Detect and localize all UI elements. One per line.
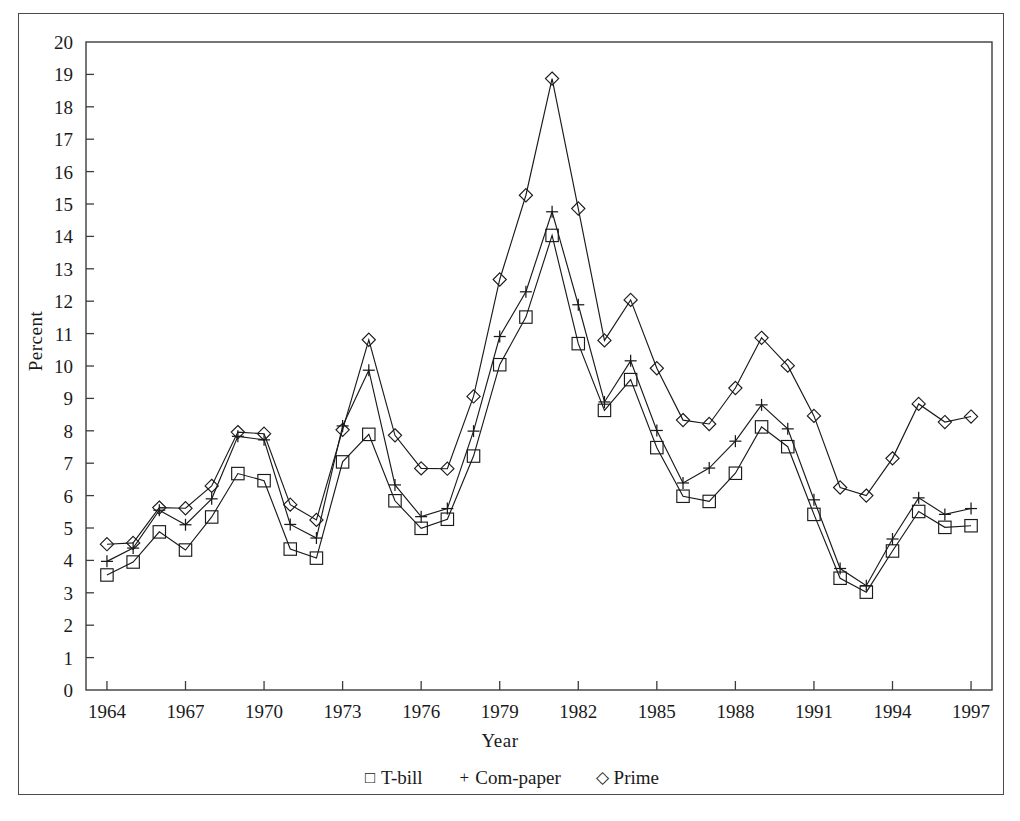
series-t-bill [101,229,978,598]
chart-legend: □T-bill +Com-paper ◇Prime [0,765,1020,789]
y-axis-tick-label: 12 [54,291,73,312]
x-axis-tick-label: 1979 [481,701,519,722]
y-axis-tick-label: 5 [64,518,74,539]
x-axis-tick-label: 1973 [324,701,362,722]
marker-diamond [964,410,977,423]
y-axis-tick-label: 8 [64,421,74,442]
y-axis-tick-label: 3 [64,583,74,604]
marker-square [101,569,113,581]
y-axis-tick-label: 17 [54,129,73,150]
y-axis-tick-label: 11 [55,324,73,345]
series-line [107,212,971,586]
x-axis-tick-label: 1970 [245,701,283,722]
y-axis-tick-label: 1 [64,648,74,669]
x-axis-label: Year [430,730,570,752]
line-chart-plot: 0123456789101112131415161718192019641967… [0,0,1020,821]
y-axis-tick-label: 2 [64,615,74,636]
y-axis-tick-label: 19 [54,64,73,85]
chart-area: 0123456789101112131415161718192019641967… [0,0,1020,821]
y-axis-tick-label: 16 [54,162,73,183]
legend-item-t-bill: □T-bill [361,765,423,789]
x-axis-tick-label: 1994 [873,701,912,722]
legend-item-prime: ◇Prime [594,765,659,789]
y-axis-tick-label: 14 [54,226,74,247]
plus-marker-icon: + [455,768,473,788]
y-axis-tick-label: 20 [54,32,73,53]
figure-container: 0123456789101112131415161718192019641967… [0,0,1020,821]
legend-label-prime: Prime [614,767,659,788]
diamond-marker-icon: ◇ [594,767,612,788]
y-axis-tick-label: 9 [64,388,74,409]
x-axis-tick-label: 1976 [402,701,440,722]
y-axis-label: Percent [25,281,47,401]
x-axis-tick-label: 1991 [795,701,833,722]
y-axis-tick-label: 13 [54,259,73,280]
x-axis-tick-label: 1982 [559,701,597,722]
legend-label-com-paper: Com-paper [475,767,560,788]
y-axis-tick-label: 0 [64,680,74,701]
x-axis-tick-label: 1964 [88,701,127,722]
legend-label-t-bill: T-bill [381,767,423,788]
y-axis-tick-label: 15 [54,194,73,215]
x-axis-tick-label: 1985 [638,701,676,722]
x-axis-tick-label: 1997 [952,701,990,722]
x-axis-tick-label: 1967 [167,701,205,722]
y-axis-tick-label: 4 [64,550,74,571]
y-axis-tick-label: 7 [64,453,74,474]
series-com-paper [101,206,977,592]
square-marker-icon: □ [361,768,379,788]
y-axis-tick-label: 18 [54,97,73,118]
series-line [107,235,971,592]
series-line [107,79,971,545]
legend-item-com-paper: +Com-paper [455,765,560,789]
x-axis-tick-label: 1988 [716,701,754,722]
y-axis-tick-label: 10 [54,356,73,377]
y-axis-tick-label: 6 [64,486,74,507]
